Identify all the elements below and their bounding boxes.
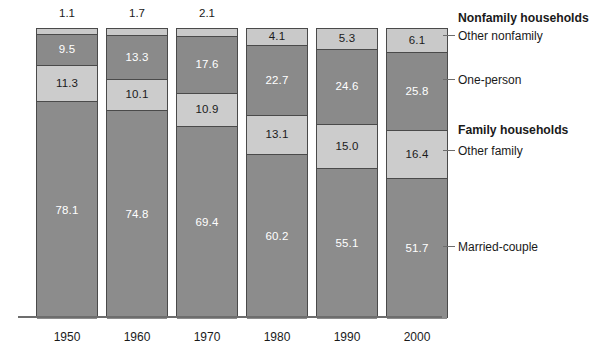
- segment-value-married-couple-1980: 60.2: [266, 231, 289, 243]
- x-tick-label-1980: 1980: [246, 330, 308, 344]
- segment-other-family-1980[interactable]: 13.1: [247, 115, 307, 154]
- bar-column-1980[interactable]: 4.1 22.7 13.1 60.2 1980: [246, 8, 308, 318]
- segment-other-family-1990[interactable]: 15.0: [317, 124, 377, 168]
- segment-value-one-person-1980: 22.7: [266, 75, 289, 87]
- segment-other-family-1970[interactable]: 10.9: [177, 93, 237, 126]
- segment-value-married-couple-2000: 51.7: [406, 243, 429, 255]
- x-tick-label-1970: 1970: [176, 330, 238, 344]
- segment-married-couple-1950[interactable]: 78.1: [37, 101, 97, 319]
- segment-value-married-couple-1990: 55.1: [336, 238, 359, 250]
- segment-married-couple-2000[interactable]: 51.7: [387, 178, 447, 319]
- segment-one-person-1980[interactable]: 22.7: [247, 45, 307, 115]
- segment-value-one-person-1970: 17.6: [196, 59, 219, 71]
- segment-value-other-family-2000: 16.4: [406, 149, 429, 161]
- x-tick-label-1960: 1960: [106, 330, 168, 344]
- bar-column-2000[interactable]: 6.1 25.8 16.4 51.7 2000: [386, 8, 448, 318]
- leader-line-married-couple: [443, 246, 455, 247]
- leader-line-one-person: [443, 79, 455, 80]
- segment-value-married-couple-1950: 78.1: [56, 205, 79, 217]
- bar-stack-1990[interactable]: 5.3 24.6 15.0 55.1: [316, 28, 378, 318]
- segment-value-other-nonfamily-2000: 6.1: [409, 35, 425, 47]
- bar-column-1950[interactable]: 1.1 9.5 11.3 78.1 1950: [36, 8, 98, 318]
- callout-group-nonfamily: Nonfamily households: [458, 12, 589, 24]
- callout-one-person: One-person: [458, 74, 521, 86]
- segment-one-person-2000[interactable]: 25.8: [387, 52, 447, 130]
- callout-other-nonfamily: Other nonfamily: [458, 30, 543, 42]
- bar-stack-1950[interactable]: 9.5 11.3 78.1: [36, 28, 98, 318]
- segment-other-nonfamily-2000[interactable]: 6.1: [387, 29, 447, 52]
- leader-line-other-nonfamily: [443, 35, 455, 36]
- segment-value-one-person-1960: 13.3: [126, 52, 149, 64]
- segment-value-other-family-1990: 15.0: [336, 141, 359, 153]
- segment-other-nonfamily-1980[interactable]: 4.1: [247, 29, 307, 45]
- bar-column-1990[interactable]: 5.3 24.6 15.0 55.1 1990: [316, 8, 378, 318]
- segment-married-couple-1960[interactable]: 74.8: [107, 110, 167, 319]
- x-tick-label-1950: 1950: [36, 330, 98, 344]
- x-tick-label-2000: 2000: [386, 330, 448, 344]
- segment-value-other-nonfamily-1990: 5.3: [339, 33, 355, 45]
- bar-top-value-1970: 2.1: [176, 8, 238, 20]
- bar-column-1960[interactable]: 1.7 13.3 10.1 74.8 1960: [106, 8, 168, 318]
- segment-one-person-1990[interactable]: 24.6: [317, 49, 377, 124]
- segment-other-family-2000[interactable]: 16.4: [387, 130, 447, 178]
- callout-other-family: Other family: [458, 145, 523, 157]
- segment-value-one-person-1950: 9.5: [59, 44, 75, 56]
- segment-value-other-family-1950: 11.3: [56, 78, 78, 90]
- bar-top-value-1960: 1.7: [106, 8, 168, 20]
- callout-married-couple: Married-couple: [458, 241, 538, 253]
- segment-married-couple-1990[interactable]: 55.1: [317, 168, 377, 319]
- segment-married-couple-1970[interactable]: 69.4: [177, 126, 237, 319]
- leader-line-other-family: [443, 150, 455, 151]
- segment-other-family-1960[interactable]: 10.1: [107, 79, 167, 110]
- callout-group-family: Family households: [458, 124, 568, 136]
- bar-stack-1980[interactable]: 4.1 22.7 13.1 60.2: [246, 28, 308, 318]
- segment-value-one-person-1990: 24.6: [336, 81, 359, 93]
- segment-value-other-family-1960: 10.1: [126, 89, 149, 101]
- bar-stack-2000[interactable]: 6.1 25.8 16.4 51.7: [386, 28, 448, 318]
- segment-other-nonfamily-1970[interactable]: [177, 29, 237, 36]
- segment-value-other-family-1970: 10.9: [196, 104, 219, 116]
- segment-one-person-1970[interactable]: 17.6: [177, 36, 237, 93]
- segment-value-other-family-1980: 13.1: [266, 129, 289, 141]
- bar-column-1970[interactable]: 2.1 17.6 10.9 69.4 1970: [176, 8, 238, 318]
- segment-other-nonfamily-1990[interactable]: 5.3: [317, 29, 377, 49]
- x-axis-line: [18, 316, 442, 318]
- segment-value-one-person-2000: 25.8: [406, 86, 429, 98]
- segment-value-married-couple-1970: 69.4: [196, 217, 219, 229]
- segment-other-family-1950[interactable]: 11.3: [37, 65, 97, 101]
- plot-area: 1.1 9.5 11.3 78.1 1950 1.7 13.: [18, 8, 442, 318]
- bar-stack-1960[interactable]: 13.3 10.1 74.8: [106, 28, 168, 318]
- bar-stack-1970[interactable]: 17.6 10.9 69.4: [176, 28, 238, 318]
- segment-one-person-1950[interactable]: 9.5: [37, 34, 97, 65]
- segment-value-other-nonfamily-1980: 4.1: [269, 31, 285, 43]
- segment-value-married-couple-1960: 74.8: [126, 209, 149, 221]
- bar-top-value-1950: 1.1: [36, 8, 98, 20]
- x-tick-label-1990: 1990: [316, 330, 378, 344]
- segment-married-couple-1980[interactable]: 60.2: [247, 154, 307, 319]
- segment-one-person-1960[interactable]: 13.3: [107, 35, 167, 79]
